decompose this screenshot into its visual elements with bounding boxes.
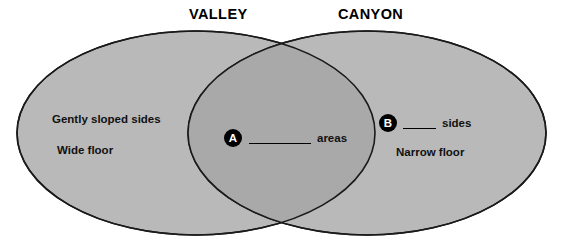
- marker-badge-b: B: [379, 114, 397, 132]
- blank-row-b: B sides: [379, 114, 471, 132]
- left-set-title: VALLEY: [189, 6, 248, 22]
- label-layer: VALLEY CANYON Gently sloped sides Wide f…: [0, 0, 562, 249]
- venn-diagram: VALLEY CANYON Gently sloped sides Wide f…: [0, 0, 562, 249]
- left-set-item-2: Wide floor: [57, 144, 113, 156]
- blank-b-trailing-word: sides: [442, 117, 471, 129]
- blank-row-a: A areas: [224, 129, 347, 147]
- marker-badge-a: A: [224, 129, 242, 147]
- blank-a-trailing-word: areas: [317, 132, 347, 144]
- answer-blank-a[interactable]: [249, 132, 311, 144]
- left-set-item-1: Gently sloped sides: [52, 113, 161, 125]
- right-set-title: CANYON: [338, 6, 403, 22]
- answer-blank-b[interactable]: [403, 117, 436, 129]
- right-set-item-1: Narrow floor: [396, 146, 464, 158]
